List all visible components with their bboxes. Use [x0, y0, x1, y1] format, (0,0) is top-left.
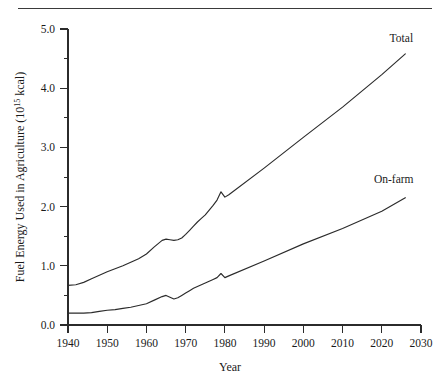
chart-figure: 0.01.02.03.04.05.0 194019501960197019801…: [0, 0, 444, 384]
x-axis-tick-label: 1970: [174, 337, 197, 349]
y-axis-title-exponent: 15: [13, 99, 22, 107]
series-label-on-farm: On-farm: [374, 173, 414, 185]
x-axis-tick-labels: 1940195019601970198019902000201020202030: [57, 337, 433, 349]
x-axis-tick-label: 2010: [331, 337, 354, 349]
x-axis-tick-label: 1950: [96, 337, 119, 349]
y-axis-tick-label: 0.0: [41, 319, 56, 331]
y-axis-minor-ticks: [64, 59, 68, 296]
y-axis-tick-label: 2.0: [41, 201, 56, 213]
x-axis-tick-label: 2000: [292, 337, 315, 349]
y-axis-title-prefix: Fuel Energy Used in Agriculture (10: [13, 107, 27, 282]
y-axis-tick-labels: 0.01.02.03.04.05.0: [41, 23, 56, 331]
x-axis-tick-label: 1960: [135, 337, 158, 349]
series-annotations: TotalOn-farm: [374, 32, 414, 185]
series-lines: [68, 54, 405, 313]
y-axis-tick-label: 4.0: [41, 82, 56, 94]
fuel-energy-line-chart: 0.01.02.03.04.05.0 194019501960197019801…: [0, 0, 444, 384]
x-axis-tick-label: 1980: [213, 337, 236, 349]
x-axis-tick-label: 1990: [253, 337, 276, 349]
series-line-on-farm: [68, 198, 405, 313]
x-axis-title: Year: [219, 360, 241, 374]
axis-frame: [68, 29, 421, 325]
y-axis-tick-label: 3.0: [41, 141, 56, 153]
y-axis-title: Fuel Energy Used in Agriculture (1015 kc…: [13, 72, 28, 282]
y-axis-title-suffix: kcal): [13, 72, 27, 99]
series-line-total: [68, 54, 405, 285]
x-axis-tick-label: 2020: [370, 337, 393, 349]
x-axis-tick-label: 1940: [57, 337, 80, 349]
x-axis-tick-label: 2030: [410, 337, 433, 349]
x-axis-major-ticks: [68, 325, 421, 333]
y-axis-tick-label: 1.0: [41, 260, 56, 272]
y-axis-tick-label: 5.0: [41, 23, 56, 35]
series-label-total: Total: [390, 32, 413, 44]
